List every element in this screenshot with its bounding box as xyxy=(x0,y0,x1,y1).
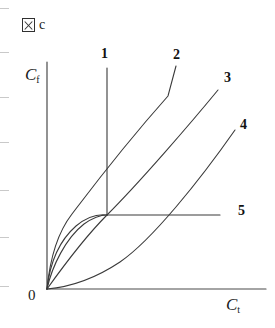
y-axis-label: Cf xyxy=(25,66,40,83)
x-axis-label-subscript: t xyxy=(237,304,240,315)
figure-container: c Cf Ct 0 1 2 3 4 5 xyxy=(0,0,275,328)
curve-label-2: 2 xyxy=(173,48,180,62)
caption-letter: c xyxy=(39,18,45,32)
origin-label: 0 xyxy=(28,288,36,303)
x-axis-label-base: C xyxy=(226,295,237,314)
curve-5-rise-path xyxy=(47,215,107,289)
curve-label-4: 4 xyxy=(240,118,247,132)
curve-1-lower-path xyxy=(47,215,107,289)
plot-canvas xyxy=(0,0,275,328)
curve-3-path xyxy=(47,90,218,289)
curve-label-5: 5 xyxy=(238,204,245,218)
figure-caption: c xyxy=(22,18,45,32)
x-axis-label: Ct xyxy=(226,296,240,313)
y-axis-label-base: C xyxy=(25,65,36,84)
y-axis-label-subscript: f xyxy=(36,74,39,85)
curve-label-3: 3 xyxy=(224,71,231,85)
tofu-box-missing-glyph-icon xyxy=(22,18,35,32)
curve-2-path xyxy=(47,66,176,289)
curve-label-1: 1 xyxy=(101,47,108,61)
